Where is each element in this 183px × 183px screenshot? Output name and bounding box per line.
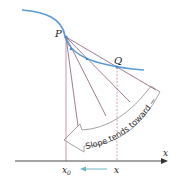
diagram-canvas: P Q x x0 x Slope tends toward −∞ — [0, 0, 183, 183]
curve-point — [86, 58, 89, 61]
point-p — [64, 35, 67, 38]
label-x-axis: x — [163, 148, 168, 158]
secant-line — [66, 37, 78, 126]
label-x: x — [114, 165, 119, 175]
label-x0-sub: 0 — [67, 169, 71, 176]
label-p: P — [54, 28, 62, 39]
secant-line — [66, 37, 130, 102]
curve-point — [70, 48, 73, 51]
label-q: Q — [114, 55, 122, 66]
approach-arrowhead — [80, 167, 86, 172]
function-curve — [22, 10, 144, 70]
label-x0: x0 — [62, 165, 71, 176]
x-axis-arrowhead — [161, 158, 168, 164]
